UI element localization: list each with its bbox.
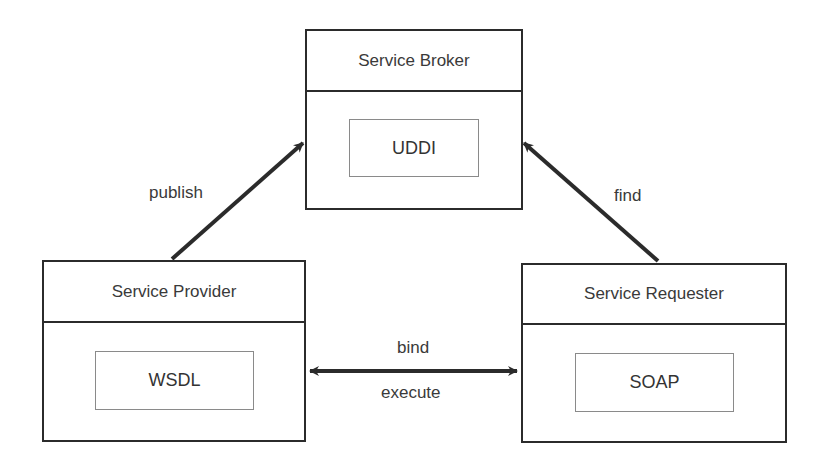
bind-label: bind xyxy=(397,338,429,358)
uddi-component: UDDI xyxy=(349,119,479,177)
wsdl-component: WSDL xyxy=(95,351,254,410)
service-provider-node: Service Provider WSDL xyxy=(42,260,306,442)
execute-label: execute xyxy=(381,383,441,403)
service-broker-title: Service Broker xyxy=(307,31,521,92)
service-provider-title: Service Provider xyxy=(44,262,304,323)
find-label: find xyxy=(614,186,641,206)
service-requester-title: Service Requester xyxy=(523,265,785,325)
service-requester-node: Service Requester SOAP xyxy=(521,263,787,443)
soap-component: SOAP xyxy=(575,353,734,412)
service-broker-node: Service Broker UDDI xyxy=(305,29,523,210)
publish-label: publish xyxy=(149,183,203,203)
